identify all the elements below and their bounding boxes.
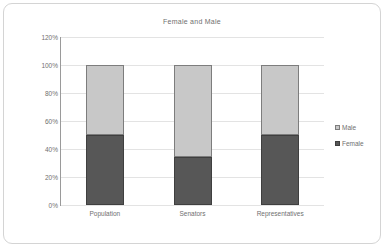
y-axis-tick-label: 20% — [18, 174, 58, 181]
x-axis-tick-label: Representatives — [257, 210, 304, 217]
legend-item-female[interactable]: Female — [335, 139, 385, 148]
chart-title: Female and Male — [4, 18, 380, 25]
y-axis-tick-label: 40% — [18, 146, 58, 153]
legend-label: Female — [342, 140, 364, 147]
bar-segment-male[interactable] — [86, 65, 124, 135]
legend-swatch-icon — [335, 125, 340, 130]
bar-segment-male[interactable] — [261, 65, 299, 135]
plot-area — [61, 37, 324, 205]
bar-segment-female[interactable] — [174, 157, 212, 205]
legend-swatch-icon — [335, 141, 340, 146]
x-axis-tick-label: Senators — [179, 210, 205, 217]
x-axis-tick-label: Population — [89, 210, 120, 217]
bar-segment-female[interactable] — [261, 135, 299, 205]
y-axis-tick-label: 60% — [18, 118, 58, 125]
y-axis-tick-labels: 0%20%40%60%80%100%120% — [14, 4, 58, 249]
chart-frame: Female and Male 0%20%40%60%80%100%120% M… — [3, 3, 381, 244]
y-axis-tick-label: 100% — [18, 62, 58, 69]
gridline — [61, 205, 324, 206]
bar-group[interactable] — [261, 37, 299, 205]
y-axis-tick-label: 120% — [18, 34, 58, 41]
y-axis-tick-label: 80% — [18, 90, 58, 97]
legend-label: Male — [342, 124, 356, 131]
bar-group[interactable] — [86, 37, 124, 205]
chart-legend: MaleFemale — [335, 123, 385, 155]
bar-group[interactable] — [174, 37, 212, 205]
y-axis-tick-label: 0% — [18, 202, 58, 209]
bar-segment-female[interactable] — [86, 135, 124, 205]
bar-segment-male[interactable] — [174, 65, 212, 157]
legend-item-male[interactable]: Male — [335, 123, 385, 132]
